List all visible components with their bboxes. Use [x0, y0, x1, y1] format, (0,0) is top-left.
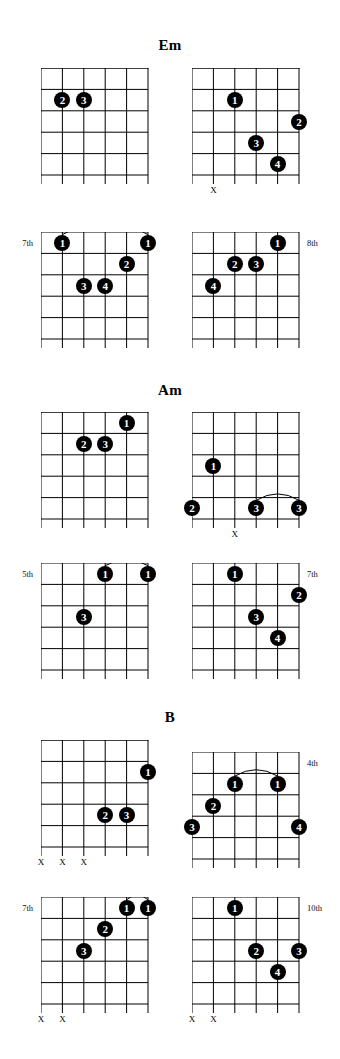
fret-position-label: 10th [307, 904, 322, 913]
finger-dot: 2 [291, 587, 307, 603]
chord-title-em: Em [0, 38, 340, 53]
finger-dot: 3 [184, 819, 200, 835]
fretboard-grid [192, 68, 301, 187]
fret-position-label: 5th [22, 570, 33, 579]
finger-dot: 1 [270, 776, 286, 792]
finger-dot: 3 [291, 500, 307, 516]
finger-dot: 4 [291, 819, 307, 835]
chord-diagram-em-4: 12348th [192, 232, 299, 357]
finger-dot: 3 [76, 609, 92, 625]
chord-diagram-am-2: 1233X [192, 412, 299, 537]
finger-dot: 2 [184, 500, 200, 516]
finger-dot: 3 [97, 436, 113, 452]
fret-position-label: 7th [22, 904, 33, 913]
finger-dot: 1 [54, 235, 70, 251]
chord-diagram-am-1: 123 [41, 412, 148, 537]
finger-dot: 2 [227, 256, 243, 272]
finger-dot: 3 [248, 256, 264, 272]
finger-dot: 2 [205, 798, 221, 814]
finger-dot: 1 [140, 764, 156, 780]
fretboard-grid [192, 897, 301, 1016]
finger-dot: 1 [140, 900, 156, 916]
fretboard-grid [41, 740, 150, 859]
finger-dot: 4 [205, 278, 221, 294]
finger-dot: 3 [248, 135, 264, 151]
chord-title-am: Am [0, 383, 340, 398]
muted-string-marker: X [210, 186, 217, 195]
muted-string-marker: X [81, 858, 88, 867]
muted-string-marker: X [210, 1015, 217, 1024]
finger-dot: 1 [205, 458, 221, 474]
finger-dot: 3 [119, 807, 135, 823]
finger-dot: 3 [76, 92, 92, 108]
finger-dot: 1 [140, 235, 156, 251]
finger-dot: 2 [119, 256, 135, 272]
finger-dot: 1 [270, 235, 286, 251]
muted-string-marker: X [38, 858, 45, 867]
chord-title-b: B [0, 710, 340, 725]
muted-string-marker: X [59, 1015, 66, 1024]
fret-position-label: 4th [307, 759, 318, 768]
muted-string-marker: X [59, 858, 66, 867]
fretboard-grid [41, 897, 150, 1016]
muted-string-marker: X [38, 1015, 45, 1024]
finger-dot: 1 [227, 92, 243, 108]
chord-diagram-am-3: 1135th [41, 563, 148, 688]
finger-dot: 1 [227, 776, 243, 792]
fret-position-label: 7th [307, 570, 318, 579]
finger-dot: 4 [97, 278, 113, 294]
finger-dot: 3 [248, 609, 264, 625]
chord-chart-page: Em231234X112347th12348thAm1231233X1135th… [0, 0, 340, 1059]
finger-dot: 1 [119, 415, 135, 431]
chord-diagram-b-2: 112344th [192, 752, 299, 877]
finger-dot: 2 [97, 807, 113, 823]
chord-diagram-b-1: 123XXX [41, 740, 148, 865]
finger-dot: 2 [54, 92, 70, 108]
fretboard-grid [41, 232, 150, 351]
finger-dot: 4 [270, 156, 286, 172]
fretboard-grid [41, 68, 150, 187]
chord-diagram-em-2: 1234X [192, 68, 299, 193]
finger-dot: 1 [227, 900, 243, 916]
finger-dot: 2 [76, 436, 92, 452]
finger-dot: 1 [227, 566, 243, 582]
chord-diagram-am-4: 12347th [192, 563, 299, 688]
chord-diagram-em-3: 112347th [41, 232, 148, 357]
finger-dot: 3 [291, 943, 307, 959]
finger-dot: 3 [76, 943, 92, 959]
finger-dot: 3 [76, 278, 92, 294]
muted-string-marker: X [232, 530, 239, 539]
fretboard-grid [41, 563, 150, 682]
chord-diagram-em-1: 23 [41, 68, 148, 193]
finger-dot: 1 [119, 900, 135, 916]
fretboard-grid [41, 412, 150, 531]
finger-dot: 4 [270, 964, 286, 980]
finger-dot: 2 [291, 114, 307, 130]
finger-dot: 2 [97, 921, 113, 937]
finger-dot: 3 [248, 500, 264, 516]
chord-diagram-b-3: 1123XX7th [41, 897, 148, 1022]
finger-dot: 1 [97, 566, 113, 582]
fret-position-label: 7th [22, 239, 33, 248]
finger-dot: 4 [270, 630, 286, 646]
finger-dot: 2 [248, 943, 264, 959]
muted-string-marker: X [189, 1015, 196, 1024]
fretboard-grid [192, 563, 301, 682]
fret-position-label: 8th [307, 239, 318, 248]
finger-dot: 1 [140, 566, 156, 582]
chord-diagram-b-4: 1234XX10th [192, 897, 299, 1022]
